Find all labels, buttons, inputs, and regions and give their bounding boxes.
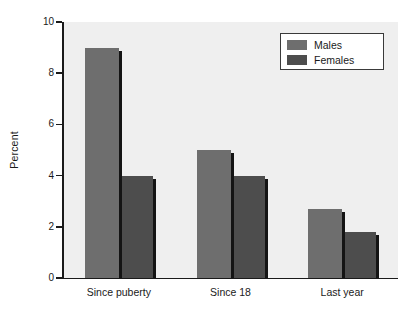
x-axis-label: Since puberty (87, 286, 151, 298)
bar-females-since-18 (231, 176, 265, 278)
bar-females-last-year (342, 232, 376, 278)
y-axis-tick (56, 226, 62, 228)
bar-males-since-puberty (85, 48, 119, 278)
y-axis-title: Percent (8, 131, 20, 169)
legend-label-males: Males (314, 40, 342, 51)
bar-females-since-puberty (119, 176, 153, 278)
y-axis-tick-label: 0 (48, 273, 54, 283)
x-axis-label: Last year (321, 286, 364, 298)
y-axis-tick (56, 277, 62, 279)
y-axis-tick-label: 4 (48, 171, 54, 181)
y-axis-tick (56, 124, 62, 126)
legend-swatch-females-icon (287, 55, 307, 65)
bar-chart-figure: 0246810 Percent Since pubertySince 18Las… (0, 0, 409, 315)
y-axis-tick-label: 6 (48, 119, 54, 129)
bar-males-since-18 (197, 150, 231, 278)
legend-swatch-males-icon (287, 40, 307, 50)
legend-label-females: Females (314, 55, 354, 66)
legend: Males Females (280, 33, 384, 70)
bar-males-last-year (308, 209, 342, 278)
y-axis-tick-label: 8 (48, 68, 54, 78)
y-axis-tick (56, 72, 62, 74)
legend-item-females: Females (287, 53, 383, 67)
y-axis-tick (56, 175, 62, 177)
y-axis-tick (56, 21, 62, 23)
x-axis-label: Since 18 (210, 286, 251, 298)
legend-item-males: Males (287, 38, 383, 52)
y-axis-tick-label: 10 (43, 17, 54, 27)
y-axis-tick-label: 2 (48, 222, 54, 232)
